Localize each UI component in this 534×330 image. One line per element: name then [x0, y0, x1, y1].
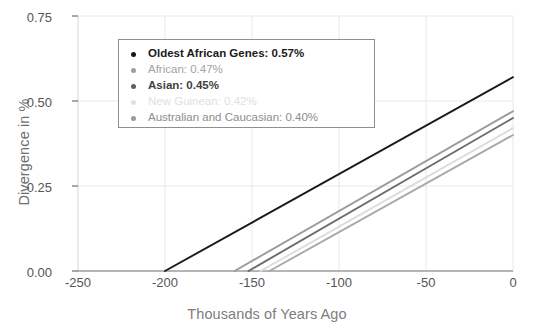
legend-item-label: Oldest African Genes: 0.57% — [148, 48, 304, 60]
legend-item-label: New Guinean: 0.42% — [148, 96, 257, 108]
legend-marker-icon — [131, 100, 136, 105]
series-line-australian-and-caucasian — [269, 135, 513, 271]
legend-marker-icon — [131, 84, 136, 89]
legend-item-asian: Asian: 0.45% — [119, 78, 374, 94]
series-line-asian — [249, 118, 513, 271]
legend-item-australian-and-caucasian: Australian and Caucasian: 0.40% — [119, 110, 374, 126]
legend-item-new-guinean: New Guinean: 0.42% — [119, 94, 374, 110]
chart-figure: Divergence in % Thousands of Years Ago 0… — [0, 0, 534, 330]
legend-item-label: African: 0.47% — [148, 64, 223, 76]
legend-item-oldest-african-genes: Oldest African Genes: 0.57% — [119, 46, 374, 62]
legend-item-label: Australian and Caucasian: 0.40% — [148, 112, 318, 124]
chart-legend: Oldest African Genes: 0.57% African: 0.4… — [118, 39, 375, 128]
legend-item-label: Asian: 0.45% — [148, 80, 219, 92]
legend-marker-icon — [131, 116, 136, 121]
series-line-new-guinean — [261, 128, 513, 271]
legend-marker-icon — [131, 52, 136, 57]
legend-item-african: African: 0.47% — [119, 62, 374, 78]
legend-marker-icon — [131, 68, 136, 73]
series-line-african — [235, 111, 513, 271]
